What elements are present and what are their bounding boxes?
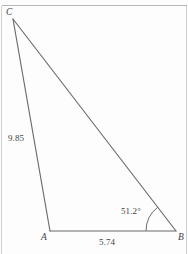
side-cb-line — [13, 19, 176, 231]
side-ca-line — [13, 19, 50, 231]
vertex-label-b: B — [178, 233, 184, 243]
side-length-label-ca: 9.85 — [8, 134, 24, 143]
triangle-svg — [0, 0, 188, 254]
angle-arc-b — [146, 207, 158, 231]
figure-canvas: C A B 9.85 5.74 51.2° — [0, 0, 188, 254]
side-length-label-ab: 5.74 — [99, 238, 115, 247]
vertex-label-a: A — [41, 233, 47, 243]
angle-measure-label-b: 51.2° — [121, 207, 141, 216]
vertex-label-c: C — [6, 8, 12, 18]
